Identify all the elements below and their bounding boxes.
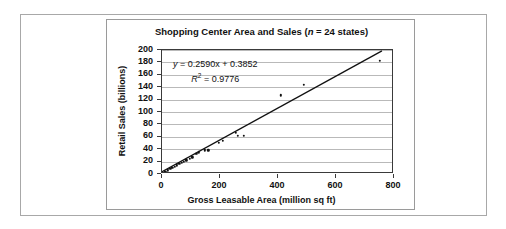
x-tick-label: 200 xyxy=(199,181,239,190)
r-squared-text: R2 = 0.9776 xyxy=(173,70,258,85)
regression-annotation: y = 0.2590x + 0.3852 R2 = 0.9776 xyxy=(173,58,258,85)
x-tick-mark xyxy=(277,174,278,178)
x-tick-mark xyxy=(161,174,162,178)
regression-equation: y = 0.2590x + 0.3852 xyxy=(173,58,258,70)
y-tick-mark xyxy=(157,49,161,50)
y-tick-mark xyxy=(157,148,161,149)
figure-container: Shopping Center Area and Sales (n = 24 s… xyxy=(0,0,506,229)
x-tick-label: 0 xyxy=(141,181,181,190)
chart-title-suffix: = 24 states) xyxy=(313,26,368,37)
y-axis-title: Retail Sales (billions) xyxy=(117,49,127,173)
y-tick-mark xyxy=(157,161,161,162)
y-tick-label: 40 xyxy=(143,144,153,153)
x-tick-mark xyxy=(219,174,220,178)
y-tick-label: 160 xyxy=(138,69,153,78)
chart-title: Shopping Center Area and Sales (n = 24 s… xyxy=(107,26,416,37)
y-tick-label: 120 xyxy=(138,94,153,103)
chart-panel: Shopping Center Area and Sales (n = 24 s… xyxy=(106,19,415,210)
x-tick-label: 800 xyxy=(373,181,413,190)
x-tick-label: 400 xyxy=(257,181,297,190)
x-tick-mark xyxy=(335,174,336,178)
y-tick-mark xyxy=(157,61,161,62)
x-axis-title: Gross Leasable Area (million sq ft) xyxy=(107,195,416,205)
x-tick-mark xyxy=(393,174,394,178)
x-tick-label: 600 xyxy=(315,181,355,190)
chart-title-prefix: Shopping Center Area and Sales ( xyxy=(155,26,308,37)
equation-rhs: = 0.2590x + 0.3852 xyxy=(178,59,258,69)
y-tick-label: 180 xyxy=(138,57,153,66)
y-tick-label: 100 xyxy=(138,107,153,116)
y-tick-mark xyxy=(157,111,161,112)
y-tick-label: 80 xyxy=(143,119,153,128)
y-tick-label: 60 xyxy=(143,131,153,140)
y-tick-label: 0 xyxy=(148,169,153,178)
y-tick-mark xyxy=(157,86,161,87)
y-tick-mark xyxy=(157,136,161,137)
y-tick-label: 200 xyxy=(138,45,153,54)
y-tick-label: 140 xyxy=(138,82,153,91)
y-tick-mark xyxy=(157,99,161,100)
y-tick-mark xyxy=(157,123,161,124)
r-squared-value: = 0.9776 xyxy=(201,74,239,84)
y-tick-label: 20 xyxy=(143,156,153,165)
y-tick-mark xyxy=(157,74,161,75)
